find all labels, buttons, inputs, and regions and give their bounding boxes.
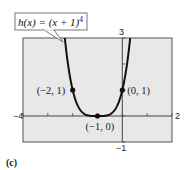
x-min-label: −4 — [13, 111, 23, 121]
y-min-label: −1 — [116, 143, 126, 153]
point-label: (0, 1) — [127, 85, 150, 97]
data-point — [95, 113, 100, 118]
data-point — [120, 87, 125, 92]
x-max-label: 2 — [175, 111, 180, 121]
function-label: h(x) = (x + 1)4 — [18, 15, 83, 29]
figure-caption: (c) — [6, 157, 17, 169]
point-label: (−1, 0) — [86, 121, 115, 133]
data-point — [70, 87, 75, 92]
function-graph: (−2, 1)(−1, 0)(0, 1) −4 2 3 −1 h(x) = (x… — [0, 0, 194, 170]
y-max-label: 3 — [119, 27, 124, 37]
point-label: (−2, 1) — [37, 85, 66, 97]
